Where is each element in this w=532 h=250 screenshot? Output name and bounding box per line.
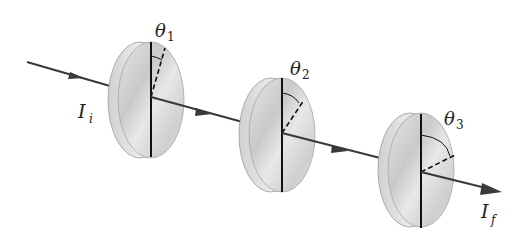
label-output-intensity: I f: [480, 200, 498, 227]
svg-text:θ: θ: [290, 58, 301, 79]
polarizer-1: [108, 42, 184, 158]
label-theta-3: θ 3: [444, 108, 464, 132]
polarizer-3: [378, 113, 455, 228]
svg-text:f: f: [490, 213, 498, 227]
label-theta-2: θ 2: [290, 58, 310, 82]
svg-text:1: 1: [167, 30, 175, 44]
svg-text:I: I: [77, 100, 86, 122]
beam-arrowhead-icon: [480, 183, 502, 195]
label-theta-1: θ 1: [155, 20, 175, 44]
beam-arrow-icon: [68, 72, 84, 79]
polarizer-2: [239, 78, 315, 192]
svg-text:θ: θ: [444, 108, 455, 129]
svg-text:3: 3: [456, 118, 464, 132]
polarizer-diagram: I i θ 1 θ 2 θ 3 I f: [0, 0, 532, 250]
svg-text:i: i: [89, 112, 93, 126]
svg-text:2: 2: [302, 68, 310, 82]
svg-text:θ: θ: [155, 20, 166, 41]
svg-text:I: I: [480, 200, 489, 222]
label-input-intensity: I i: [77, 100, 93, 126]
incident-beam: [27, 62, 110, 86]
